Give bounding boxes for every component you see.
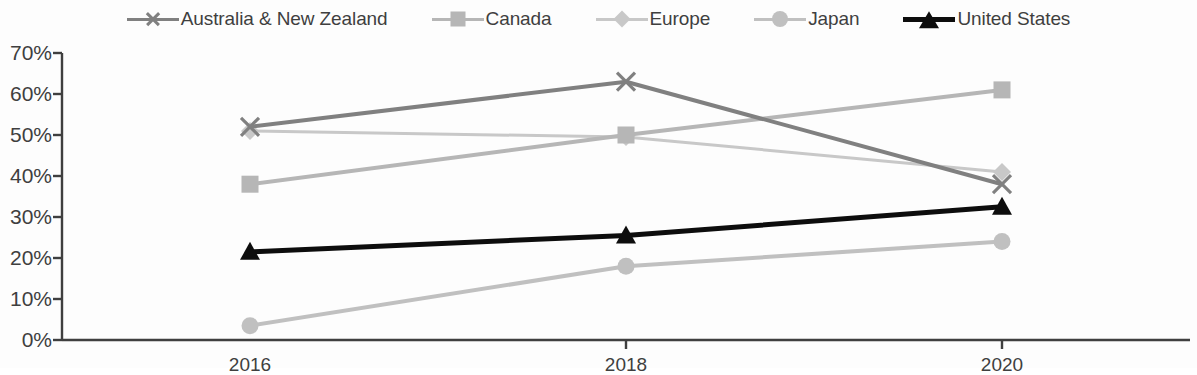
chart-legend: Australia & New ZealandCanadaEuropeJapan… xyxy=(0,4,1197,34)
legend-item[interactable]: United States xyxy=(903,8,1070,30)
x-axis-tick-labels: 201620182020 xyxy=(0,36,1197,368)
circle-marker xyxy=(772,11,788,27)
legend-item[interactable]: Australia & New Zealand xyxy=(127,8,388,30)
plot-area: 0%10%20%30%40%50%60%70% 201620182020 xyxy=(0,36,1197,368)
legend-label: United States xyxy=(957,8,1070,30)
x-axis-tick-label: 2018 xyxy=(605,354,647,375)
legend-label: Europe xyxy=(650,8,711,30)
legend-swatch xyxy=(596,10,648,28)
legend-label: Australia & New Zealand xyxy=(181,8,388,30)
legend-item[interactable]: Canada xyxy=(432,8,552,30)
legend-item[interactable]: Europe xyxy=(596,8,711,30)
x-axis-tick-label: 2020 xyxy=(981,354,1023,375)
diamond-marker xyxy=(613,11,630,28)
x-marker xyxy=(145,11,161,27)
square-marker xyxy=(450,12,465,27)
legend-item[interactable]: Japan xyxy=(754,8,859,30)
legend-label: Japan xyxy=(808,8,859,30)
triangle-marker xyxy=(919,11,939,28)
legend-swatch xyxy=(754,10,806,28)
legend-swatch xyxy=(903,10,955,28)
legend-swatch xyxy=(127,10,179,28)
legend-label: Canada xyxy=(486,8,552,30)
x-axis-tick-label: 2016 xyxy=(229,354,271,375)
legend-swatch xyxy=(432,10,484,28)
